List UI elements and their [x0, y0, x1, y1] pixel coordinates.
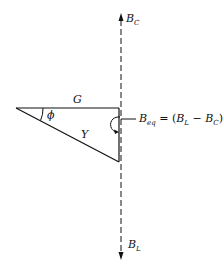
arrow-up-icon [119, 13, 124, 21]
label-bc: BC [125, 12, 140, 27]
label-phi: ϕ [47, 109, 55, 122]
label-y: Y [81, 128, 90, 141]
arrow-down-icon [119, 252, 124, 260]
label-bl: BL [127, 238, 141, 253]
equation-label: Beq = (BL − BC) [138, 112, 223, 127]
admittance-diagram: BC BL G Y ϕ Beq = (BL − BC) [0, 0, 223, 273]
label-g: G [73, 93, 82, 106]
hook-arrowhead-icon [114, 130, 119, 135]
admittance-hypotenuse [16, 108, 119, 162]
angle-arc [41, 108, 44, 121]
